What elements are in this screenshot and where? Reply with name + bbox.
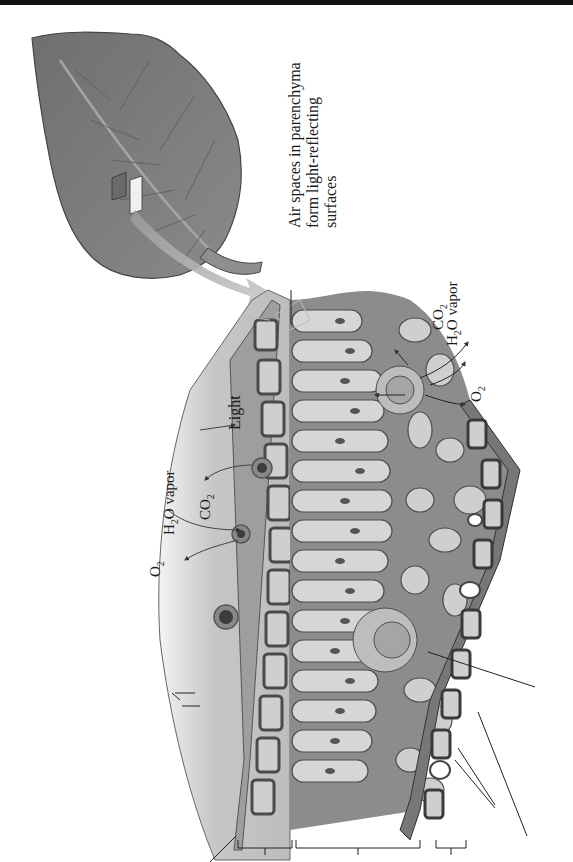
label-light: Light (226, 395, 244, 430)
leaf-cross-section-diagram: Light H2O vapor CO2 O2 Air spaces in par… (0, 0, 573, 862)
label-lower-h2o-vapor: H2O vapor (444, 281, 463, 346)
label-lower-o2: O2 (468, 386, 487, 402)
whole-leaf-illustration (32, 32, 262, 278)
label-air-spaces: Air spaces in parenchyma form light-refl… (286, 58, 339, 228)
svg-text:Light: Light (226, 395, 244, 430)
leaf-cross-section (159, 290, 520, 860)
svg-text:Air spaces in parenchyma: Air spaces in parenchyma form light-refl… (286, 58, 339, 228)
svg-text:H2O vapor: H2O vapor (444, 281, 463, 346)
svg-text:O2: O2 (468, 386, 487, 402)
